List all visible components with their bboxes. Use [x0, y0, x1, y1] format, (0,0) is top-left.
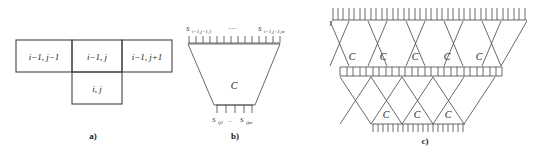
bottom-c-2: C: [414, 109, 421, 120]
output-label-right-symbol: S: [240, 116, 244, 124]
block-c-label: C: [231, 80, 238, 91]
bottom-c-1: C: [383, 109, 390, 120]
output-label-left-symbol: S: [212, 116, 216, 124]
input-label-left-subscript: i−1,j−1,1: [192, 29, 212, 35]
figure-root: i−1, j−1 i−1, j i−1, j+1 i, j: [0, 0, 542, 155]
block-c-trapezoid: [188, 44, 280, 105]
panel-a-caption: a): [78, 131, 108, 141]
output-ticks: [217, 105, 252, 113]
panel-b-caption: b): [220, 131, 250, 141]
top-c-2: C: [380, 51, 387, 62]
bottom-bus: [372, 124, 465, 132]
panel-c-caption: c): [410, 136, 440, 146]
cell-top-left-label: i−1, j−1: [29, 52, 60, 62]
top-ticks: [333, 8, 525, 20]
top-row-trapezoids: [330, 21, 527, 66]
input-ticks: [189, 36, 280, 43]
panel-a: i−1, j−1 i−1, j i−1, j+1 i, j: [16, 40, 172, 104]
input-label-right-subscript: i−1,j+1,m: [264, 29, 285, 35]
output-ellipsis: ...: [228, 118, 232, 123]
top-c-5: C: [476, 51, 483, 62]
input-label-right-symbol: S: [258, 25, 262, 33]
middle-band: [340, 67, 502, 76]
cell-bottom-label: i, j: [92, 84, 102, 94]
top-c-3: C: [412, 51, 419, 62]
output-label-right-subscript: ijm: [246, 120, 253, 125]
input-label-left-symbol: S: [186, 25, 190, 33]
top-row-c-labels: C C C C C: [349, 51, 483, 62]
cell-top-right-label: i−1, j+1: [132, 52, 163, 62]
input-ellipsis: ···: [228, 24, 236, 33]
cell-top-middle-label: i−1, j: [87, 52, 108, 62]
bottom-c-3: C: [445, 109, 452, 120]
panel-b: S i−1,j−1,1 ··· S i−1,j+1,m C S ij1 ...: [186, 24, 285, 125]
panel-c: C C C C C: [330, 8, 527, 132]
output-label-left-subscript: ij1: [218, 120, 223, 125]
top-c-1: C: [349, 51, 356, 62]
top-c-4: C: [444, 51, 451, 62]
